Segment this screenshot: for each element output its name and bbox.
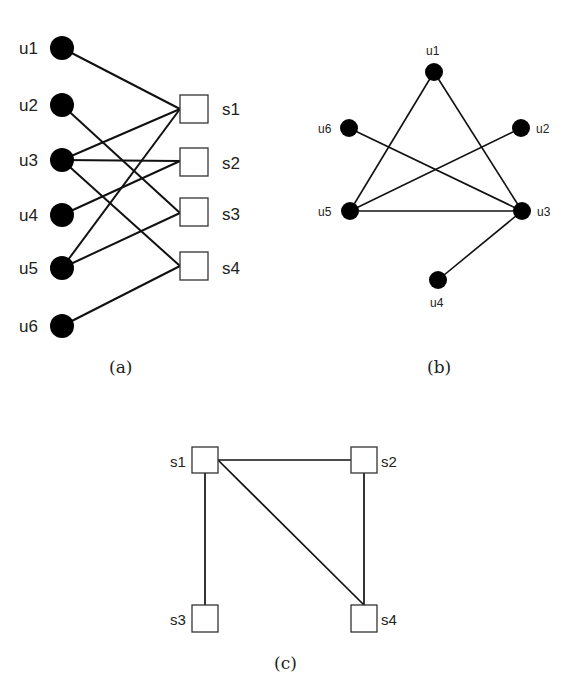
label-b-u1: u1 bbox=[426, 44, 440, 58]
node-u6 bbox=[50, 314, 74, 338]
node-b-u5 bbox=[341, 202, 359, 220]
edge-s1-s4 bbox=[218, 460, 364, 605]
node-b-u3 bbox=[513, 202, 531, 220]
label-c-s3: s3 bbox=[170, 611, 186, 628]
node-u3 bbox=[50, 148, 74, 172]
panel-a-edges bbox=[62, 48, 180, 326]
node-c-s4 bbox=[351, 605, 377, 632]
edge-u2-s3 bbox=[62, 105, 180, 213]
caption-a: (a) bbox=[109, 357, 132, 377]
node-b-u6 bbox=[340, 119, 358, 137]
node-c-s1 bbox=[192, 447, 218, 473]
caption-b: (b) bbox=[427, 357, 451, 377]
edge-u5-s3 bbox=[62, 213, 180, 268]
caption-c: (c) bbox=[274, 653, 297, 673]
edge-u3-u4 bbox=[438, 211, 522, 280]
label-u1: u1 bbox=[19, 39, 38, 58]
panel-b-nodes: u1 u2 u3 u4 u5 u6 bbox=[318, 44, 551, 310]
edge-u1-s1 bbox=[62, 48, 180, 109]
panel-c: s1 s2 s3 s4 (c) bbox=[170, 447, 397, 673]
label-b-u3: u3 bbox=[537, 205, 551, 219]
label-c-s1: s1 bbox=[170, 453, 186, 470]
edge-u3-s4 bbox=[62, 160, 180, 266]
label-u3: u3 bbox=[19, 151, 38, 170]
figure-canvas: u1 u2 u3 u4 u5 u6 s1 s2 s3 s4 (a) bbox=[0, 0, 578, 695]
node-c-s2 bbox=[351, 447, 377, 473]
node-s2 bbox=[180, 148, 208, 176]
label-b-u5: u5 bbox=[318, 205, 332, 219]
panel-a-service-nodes: s1 s2 s3 s4 bbox=[180, 95, 240, 280]
label-u6: u6 bbox=[19, 317, 38, 336]
node-s1 bbox=[180, 95, 208, 123]
node-u4 bbox=[50, 203, 74, 227]
label-u5: u5 bbox=[19, 259, 38, 278]
label-s3: s3 bbox=[222, 205, 240, 224]
node-b-u4 bbox=[429, 271, 447, 289]
label-s4: s4 bbox=[222, 259, 240, 278]
node-u5 bbox=[50, 256, 74, 280]
label-c-s2: s2 bbox=[381, 453, 397, 470]
node-s3 bbox=[180, 198, 208, 226]
edge-u5-s1 bbox=[62, 109, 180, 268]
panel-a-user-nodes: u1 u2 u3 u4 u5 u6 bbox=[19, 36, 74, 338]
panel-a: u1 u2 u3 u4 u5 u6 s1 s2 s3 s4 (a) bbox=[19, 36, 240, 377]
edge-u6-s4 bbox=[62, 266, 180, 326]
label-b-u2: u2 bbox=[536, 122, 550, 136]
panel-b: u1 u2 u3 u4 u5 u6 (b) bbox=[318, 44, 551, 377]
panel-b-edges bbox=[349, 72, 522, 280]
label-b-u6: u6 bbox=[318, 122, 332, 136]
panel-c-edges bbox=[205, 460, 364, 605]
label-c-s4: s4 bbox=[381, 611, 397, 628]
node-u2 bbox=[50, 93, 74, 117]
node-u1 bbox=[50, 36, 74, 60]
label-s2: s2 bbox=[222, 154, 240, 173]
node-b-u1 bbox=[425, 63, 443, 81]
label-s1: s1 bbox=[222, 100, 240, 119]
label-u4: u4 bbox=[19, 206, 38, 225]
edge-u3-s2 bbox=[62, 160, 180, 161]
label-u2: u2 bbox=[19, 96, 38, 115]
node-b-u2 bbox=[512, 119, 530, 137]
node-s4 bbox=[180, 252, 208, 280]
label-b-u4: u4 bbox=[430, 296, 444, 310]
node-c-s3 bbox=[192, 605, 218, 632]
